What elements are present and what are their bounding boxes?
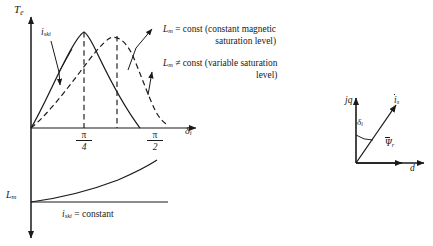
phasor-angle-arc <box>356 135 373 140</box>
curve-magnetizing-inductance <box>31 160 157 202</box>
legend-entry-lm-const: Lm = const (constant magnetic saturation… <box>163 24 276 48</box>
curve-lm-const <box>31 32 140 128</box>
top-plot-curves <box>31 32 168 128</box>
legend-entry-lm-variable: Lm ≠ const (variable saturation level) <box>163 58 277 82</box>
phasor-current-label: is <box>394 96 399 106</box>
curve-lm-variable <box>31 37 168 128</box>
phasor-jq-label: jq <box>345 96 352 106</box>
phasor-current-vector <box>356 105 396 163</box>
iski-annotation-label: iski <box>41 28 51 38</box>
leader-lm-variable <box>148 72 152 95</box>
bottom-y-axis-label: Lm <box>6 190 16 201</box>
top-y-axis-label: Te <box>14 4 23 16</box>
iski-leader <box>51 41 72 85</box>
phasor-d-label: d <box>410 164 415 174</box>
x-tick-pi-over-4: π 4 <box>76 130 92 153</box>
phasor-diagram <box>356 98 424 163</box>
top-x-axis-label: δi <box>185 126 192 137</box>
bottom-plot-caption: iski = constant <box>62 210 114 220</box>
phasor-angle-label: δi <box>357 118 363 128</box>
x-tick-pi-over-2: π 2 <box>147 130 163 153</box>
phasor-flux-label: Ψr <box>385 139 394 149</box>
leader-lm-const <box>128 29 152 70</box>
legend-leaders <box>128 29 152 95</box>
